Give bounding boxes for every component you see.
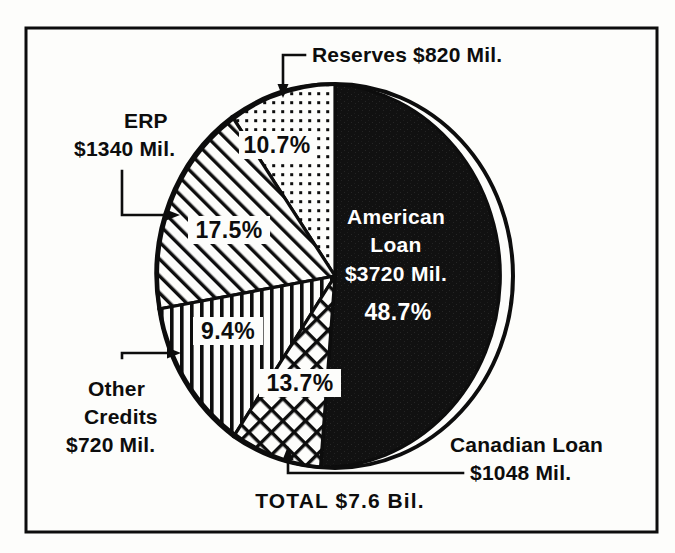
erp-callout-line1: ERP xyxy=(124,109,168,132)
reserves-percent-label: 10.7% xyxy=(239,131,315,159)
american-loan-label-line1: American xyxy=(347,205,445,228)
american-loan-percent: 48.7% xyxy=(364,299,431,325)
other-credits-leader-line xyxy=(122,353,168,358)
other-credits-percent-text: 9.4% xyxy=(201,318,255,344)
other-credits-callout-line2: Credits xyxy=(84,405,158,428)
canadian-loan-percent-text: 13.7% xyxy=(266,370,333,396)
chart-canvas: American Loan $3720 Mil. 48.7% 10.7% 17.… xyxy=(0,0,675,553)
canadian-loan-callout-line2: $1048 Mil. xyxy=(470,461,571,484)
erp-callout-line2: $1340 Mil. xyxy=(74,137,175,160)
american-loan-label-line2: Loan xyxy=(370,233,421,256)
reserves-percent-text: 10.7% xyxy=(243,132,310,158)
canadian-loan-callout-line1: Canadian Loan xyxy=(450,433,603,456)
other-credits-percent-label: 9.4% xyxy=(193,317,263,345)
reserves-leader-line xyxy=(283,55,305,86)
erp-leader-line xyxy=(122,171,167,215)
erp-percent-label: 17.5% xyxy=(188,216,270,244)
american-loan-label-line3: $3720 Mil. xyxy=(345,262,447,285)
erp-callout: ERP $1340 Mil. xyxy=(74,109,180,221)
reserves-callout-text: Reserves $820 Mil. xyxy=(312,43,502,66)
chart-total-label: TOTAL $7.6 Bil. xyxy=(255,489,424,512)
erp-percent-text: 17.5% xyxy=(195,217,262,243)
canadian-loan-percent-label: 13.7% xyxy=(259,369,341,397)
pie-chart-figure: American Loan $3720 Mil. 48.7% 10.7% 17.… xyxy=(0,0,675,553)
other-credits-callout-line3: $720 Mil. xyxy=(66,433,155,456)
other-credits-callout-line1: Other xyxy=(88,377,145,400)
other-credits-callout: Other Credits $720 Mil. xyxy=(66,348,181,457)
pie-slices xyxy=(156,84,513,468)
